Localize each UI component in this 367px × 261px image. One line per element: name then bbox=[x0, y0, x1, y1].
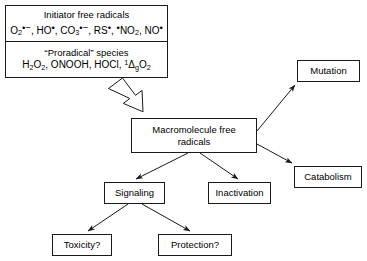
edge-macromolecule-signaling bbox=[136, 153, 188, 179]
node-proradical-species[interactable]: “Proradical” species H2O2, ONOOH, HOCl, … bbox=[5, 41, 168, 78]
flowchart-diagram: Initiator free radicals O2•−, HO•, CO3•−… bbox=[0, 0, 367, 261]
node-initiator-heading: Initiator free radicals bbox=[44, 9, 130, 21]
node-macromolecule-free-radicals[interactable]: Macromolecule free radicals bbox=[131, 118, 257, 153]
node-macromolecule-line2: radicals bbox=[178, 136, 211, 148]
node-mutation-label: Mutation bbox=[310, 65, 346, 77]
node-mutation[interactable]: Mutation bbox=[297, 60, 360, 82]
node-initiator-formula: O2•−, HO•, CO3•−, RS•, •NO2, NO• bbox=[10, 22, 163, 38]
node-toxicity[interactable]: Toxicity? bbox=[52, 234, 112, 256]
edge-signaling-toxicity bbox=[88, 204, 128, 231]
edge-proradical-macromolecule-block-arrow bbox=[109, 78, 144, 112]
edge-signaling-protection bbox=[142, 204, 190, 231]
node-signaling-label: Signaling bbox=[115, 187, 154, 199]
node-macromolecule-line1: Macromolecule free bbox=[152, 124, 235, 136]
node-catabolism-label: Catabolism bbox=[304, 171, 352, 183]
node-signaling[interactable]: Signaling bbox=[104, 182, 165, 204]
node-initiator-free-radicals[interactable]: Initiator free radicals O2•−, HO•, CO3•−… bbox=[5, 5, 168, 41]
edge-macromolecule-inactivation bbox=[200, 153, 238, 179]
edge-macromolecule-catabolism bbox=[257, 144, 292, 163]
edge-macromolecule-mutation bbox=[257, 85, 295, 131]
node-proradical-heading: “Proradical” species bbox=[45, 47, 129, 59]
node-catabolism[interactable]: Catabolism bbox=[294, 166, 362, 188]
node-inactivation[interactable]: Inactivation bbox=[208, 182, 271, 204]
node-inactivation-label: Inactivation bbox=[215, 187, 263, 199]
node-toxicity-label: Toxicity? bbox=[64, 239, 100, 251]
node-protection-label: Protection? bbox=[171, 239, 219, 251]
node-proradical-formula: H2O2, ONOOH, HOCl, 1ΔgO2 bbox=[22, 59, 150, 72]
node-protection[interactable]: Protection? bbox=[158, 234, 232, 256]
